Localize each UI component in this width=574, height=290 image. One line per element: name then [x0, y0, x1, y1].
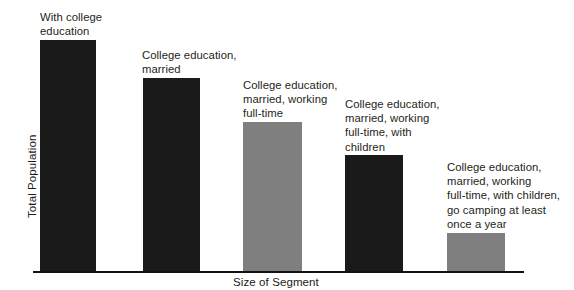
- bar-2[interactable]: [143, 78, 200, 271]
- bar-label-3: College education, married, working full…: [243, 78, 337, 121]
- bar-4[interactable]: [345, 155, 403, 271]
- chart-container: With college education College education…: [0, 0, 574, 290]
- bar-label-5: College education, married, working full…: [447, 160, 560, 231]
- x-axis-title: Size of Segment: [233, 276, 319, 288]
- bar-label-2: College education, married: [142, 48, 236, 76]
- x-axis-line: [33, 271, 524, 273]
- plot-area: With college education College education…: [0, 0, 574, 290]
- y-axis-title: Total Population: [26, 135, 38, 218]
- bar-1[interactable]: [40, 40, 96, 271]
- bar-3[interactable]: [243, 122, 302, 271]
- bar-label-4: College education, married, working full…: [345, 97, 439, 154]
- bar-5[interactable]: [447, 233, 505, 271]
- bar-label-1: With college education: [40, 10, 102, 38]
